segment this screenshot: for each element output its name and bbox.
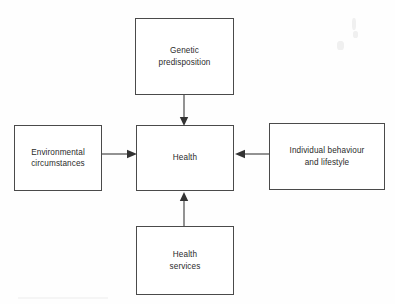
- scan-artifact-icon: [353, 31, 358, 38]
- arrow-genetic-to-health: [178, 95, 190, 127]
- scan-artifact-icon: [337, 41, 344, 50]
- node-individual-behaviour-and-lifestyle: Individual behaviour and lifestyle: [269, 123, 385, 190]
- arrow-environment-to-health: [102, 148, 138, 160]
- scan-artifact-icon: [352, 18, 356, 30]
- node-environmental-circumstances: Environmental circumstances: [14, 125, 102, 191]
- node-health-services-label: Health services: [166, 249, 205, 272]
- diagram-canvas: Genetic predisposition Environmental cir…: [0, 0, 395, 304]
- node-health-label: Health: [169, 152, 201, 164]
- node-health: Health: [136, 125, 234, 191]
- scan-artifact-icon: [18, 297, 108, 299]
- node-environmental-circumstances-label: Environmental circumstances: [27, 147, 89, 170]
- node-individual-behaviour-and-lifestyle-label: Individual behaviour and lifestyle: [286, 145, 369, 168]
- node-health-services: Health services: [136, 226, 234, 295]
- arrow-individual-to-health: [234, 148, 270, 160]
- node-genetic-predisposition: Genetic predisposition: [135, 18, 234, 95]
- node-genetic-predisposition-label: Genetic predisposition: [155, 45, 215, 68]
- arrow-services-to-health: [178, 191, 190, 227]
